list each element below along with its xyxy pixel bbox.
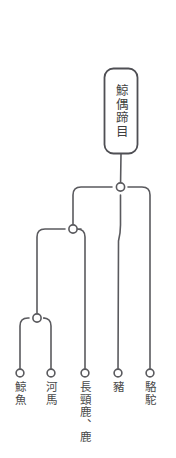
leaf-label-giraffe-deer: 長頸鹿、鹿 (79, 381, 91, 444)
leaf-node-pig[interactable] (114, 369, 122, 377)
leaf-node-hippo[interactable] (47, 369, 55, 377)
leaf-label-pig: 豬 (112, 381, 124, 394)
leaf-node-circles (16, 369, 154, 377)
internal-node-n1[interactable] (116, 183, 124, 191)
branch-n3-to-leaf-whale (20, 318, 29, 373)
leaf-node-camel[interactable] (146, 369, 154, 377)
leaf-label-hippo: 河馬 (45, 381, 57, 406)
root-node-label: 鯨偶蹄目 (104, 68, 138, 154)
leaf-node-whale[interactable] (16, 369, 24, 377)
branch-n2-to-leaf-giraffe-deer (77, 229, 85, 373)
internal-node-n2[interactable] (69, 225, 77, 233)
internal-node-circles (33, 183, 125, 322)
leaf-label-hippo-text: 河馬 (44, 381, 58, 406)
branch-n2-to-n3 (37, 229, 65, 318)
leaf-label-whale: 鯨魚 (14, 381, 26, 406)
branch-n1-to-leaf-camel (128, 187, 150, 373)
branch-n3-to-leaf-hippo (43, 318, 51, 373)
branch-root-to-n1 (121, 154, 122, 187)
leaf-node-giraffe-deer[interactable] (81, 369, 89, 377)
leaf-label-whale-text: 鯨魚 (13, 381, 27, 406)
leaf-label-giraffe-deer-text: 長頸鹿、鹿 (78, 381, 92, 444)
internal-node-n3[interactable] (33, 314, 41, 322)
branch-n1-to-n2 (73, 187, 112, 229)
branch-n1-to-leaf-pig (118, 195, 121, 373)
leaf-label-camel: 駱駝 (144, 381, 156, 406)
leaf-label-camel-text: 駱駝 (143, 381, 157, 406)
leaf-label-pig-text: 豬 (111, 381, 125, 394)
cladogram-diagram: 鯨偶蹄目 鯨魚 河馬 長頸鹿、鹿 豬 駱駝 (0, 0, 176, 458)
root-node-label-text: 鯨偶蹄目 (114, 84, 128, 138)
